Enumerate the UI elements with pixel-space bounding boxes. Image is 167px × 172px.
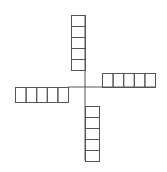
square-cell bbox=[145, 74, 156, 88]
square-cell bbox=[134, 74, 145, 88]
square-cell bbox=[47, 88, 58, 103]
square-cell bbox=[72, 27, 86, 38]
square-cell bbox=[86, 140, 100, 151]
square-cell bbox=[16, 88, 27, 103]
square-cell bbox=[58, 88, 69, 103]
square-cell bbox=[72, 16, 86, 27]
cross-net-diagram bbox=[0, 0, 167, 172]
square-cell bbox=[72, 49, 86, 60]
square-cell bbox=[72, 38, 86, 49]
square-cell bbox=[124, 74, 135, 88]
square-cell bbox=[26, 88, 37, 103]
square-cell bbox=[86, 151, 100, 162]
square-cell bbox=[72, 60, 86, 71]
arm-right bbox=[103, 74, 156, 88]
square-cell bbox=[113, 74, 124, 88]
arm-left bbox=[16, 88, 69, 103]
arm-top bbox=[72, 16, 86, 71]
square-cell bbox=[86, 129, 100, 140]
arm-bottom bbox=[86, 107, 100, 162]
square-cell bbox=[37, 88, 48, 103]
square-cell bbox=[103, 74, 114, 88]
square-cell bbox=[86, 118, 100, 129]
square-cell bbox=[86, 107, 100, 118]
